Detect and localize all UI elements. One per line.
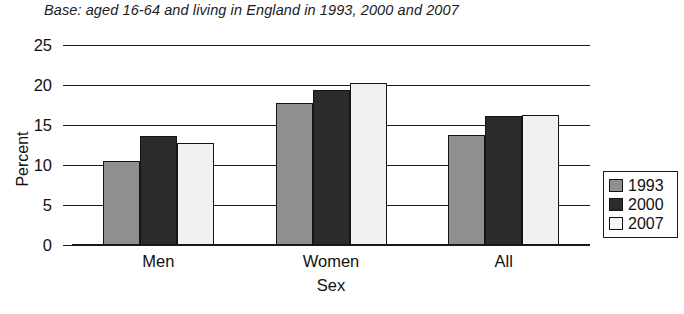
gridline-25 <box>72 45 590 46</box>
y-axis-tick-labels: 0510152025 <box>0 45 62 245</box>
bar-men-1993 <box>103 161 140 245</box>
legend-label-1993: 1993 <box>628 178 664 194</box>
plot-area <box>72 45 590 245</box>
legend-label-2000: 2000 <box>628 197 664 213</box>
y-tick-label-20: 20 <box>34 76 52 95</box>
chart-title: Base: aged 16-64 and living in England i… <box>44 2 459 18</box>
gridline-20 <box>72 85 590 86</box>
legend-swatch-icon-2000 <box>609 198 623 211</box>
bar-all-1993 <box>448 135 485 245</box>
y-tick-mark-15 <box>63 125 72 126</box>
y-tick-label-25: 25 <box>34 36 52 55</box>
x-axis-title: Sex <box>317 276 345 295</box>
bar-all-2007 <box>522 115 559 245</box>
legend-item-2007[interactable]: 2007 <box>609 214 673 233</box>
chart-legend: 199320002007 <box>603 171 678 238</box>
legend-swatch-icon-1993 <box>609 179 623 192</box>
bar-all-2000 <box>485 116 522 245</box>
y-tick-label-15: 15 <box>34 116 52 135</box>
legend-item-2000[interactable]: 2000 <box>609 195 673 214</box>
y-tick-mark-10 <box>63 165 72 166</box>
legend-item-1993[interactable]: 1993 <box>609 176 673 195</box>
y-tick-mark-0 <box>63 245 72 246</box>
bar-men-2007 <box>177 143 214 245</box>
x-tick-label-all: All <box>494 252 512 271</box>
bar-chart-figure: Base: aged 16-64 and living in England i… <box>0 0 684 314</box>
bar-women-1993 <box>276 103 313 245</box>
bar-women-2007 <box>350 83 387 245</box>
y-tick-mark-5 <box>63 205 72 206</box>
bar-women-2000 <box>313 90 350 245</box>
gridline-0 <box>72 245 590 246</box>
legend-label-2007: 2007 <box>628 216 664 232</box>
y-tick-label-0: 0 <box>43 236 52 255</box>
y-tick-mark-20 <box>63 85 72 86</box>
x-tick-label-women: Women <box>303 252 360 271</box>
x-tick-label-men: Men <box>142 252 174 271</box>
y-tick-mark-25 <box>63 45 72 46</box>
legend-swatch-icon-2007 <box>609 217 623 230</box>
x-axis-baseline <box>72 244 590 245</box>
bar-men-2000 <box>140 136 177 245</box>
y-tick-label-10: 10 <box>34 156 52 175</box>
y-tick-label-5: 5 <box>43 196 52 215</box>
